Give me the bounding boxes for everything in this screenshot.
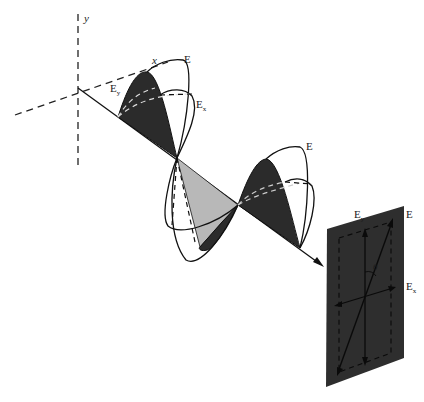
ex-label-1: Ex: [196, 98, 207, 113]
x-axis-label: x: [151, 54, 157, 66]
e-label-1: E: [184, 53, 191, 65]
panel-ex-label: Ex: [406, 280, 417, 295]
polarization-diagram: y x E Ey Ex E: [0, 0, 424, 402]
half-wave-1: E Ey Ex: [110, 53, 207, 158]
propagation-arrow-icon: [313, 257, 324, 267]
ey-lobe-1: [118, 72, 177, 158]
e-label-2: E: [306, 140, 313, 152]
diagram-canvas: y x E Ey Ex E: [0, 0, 424, 402]
ey-label-1: Ey: [110, 82, 121, 97]
ey-lobe-3: [238, 159, 300, 248]
polarization-plane: θ Ey E Ex: [326, 206, 417, 387]
theta-label: θ: [373, 262, 378, 272]
half-wave-2: [165, 158, 238, 261]
y-axis-label: y: [83, 12, 89, 24]
panel-e-label: E: [406, 208, 413, 220]
half-wave-3: E: [238, 140, 314, 248]
